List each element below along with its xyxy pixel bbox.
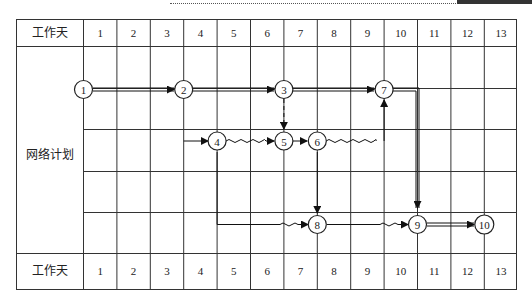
grid-table <box>16 19 517 290</box>
svg-text:2: 2 <box>181 84 187 96</box>
svg-text:7: 7 <box>381 84 387 96</box>
footer-day: 8 <box>331 265 337 277</box>
header-day: 4 <box>198 27 204 39</box>
header-day: 1 <box>97 27 103 39</box>
footer-label: 工作天 <box>32 264 68 278</box>
header-label: 工作天 <box>32 26 68 40</box>
header-day: 10 <box>395 27 407 39</box>
footer-day: 2 <box>131 265 137 277</box>
node-3: 3 <box>275 81 293 99</box>
svg-text:9: 9 <box>415 219 421 231</box>
svg-text:3: 3 <box>281 84 287 96</box>
svg-text:10: 10 <box>479 219 491 231</box>
node-4: 4 <box>208 132 226 150</box>
svg-text:1: 1 <box>81 84 87 96</box>
header-day: 8 <box>331 27 337 39</box>
node-1: 1 <box>75 81 93 99</box>
edge-8-9 <box>327 223 408 226</box>
node-6: 6 <box>308 132 326 150</box>
edge-2-3 <box>193 88 274 91</box>
side-label: 网络计划 <box>26 147 74 162</box>
header-row: 工作天 1 2 3 4 5 6 7 8 9 10 11 12 13 <box>32 26 507 40</box>
node-5: 5 <box>275 132 293 150</box>
edge-1-2 <box>93 88 174 91</box>
svg-text:8: 8 <box>315 219 321 231</box>
header-day: 9 <box>365 27 371 39</box>
svg-text:4: 4 <box>214 136 220 148</box>
node-2: 2 <box>175 81 193 99</box>
header-day: 6 <box>264 27 270 39</box>
header-day: 2 <box>131 27 137 39</box>
footer-day: 12 <box>462 265 473 277</box>
footer-day: 13 <box>496 265 508 277</box>
edge-3-7 <box>293 88 374 91</box>
footer-day: 7 <box>298 265 304 277</box>
node-9: 9 <box>409 216 427 234</box>
footer-day: 11 <box>429 265 440 277</box>
header-day: 3 <box>164 27 170 39</box>
footer-day: 4 <box>198 265 204 277</box>
node-7: 7 <box>375 81 393 99</box>
node-10: 10 <box>475 215 494 234</box>
header-day: 5 <box>231 27 237 39</box>
footer-day: 6 <box>264 265 270 277</box>
header-day: 12 <box>462 27 473 39</box>
edge-4-8 <box>217 152 308 226</box>
svg-text:6: 6 <box>315 136 321 148</box>
footer-day: 10 <box>395 265 407 277</box>
time-scaled-network-diagram: 工作天 1 2 3 4 5 6 7 8 9 10 11 12 13 工作天 1 … <box>0 0 532 300</box>
footer-day: 1 <box>97 265 103 277</box>
footer-day: 9 <box>365 265 371 277</box>
footer-day: 5 <box>231 265 237 277</box>
node-8: 8 <box>308 216 326 234</box>
edge-7-9 <box>393 88 419 208</box>
header-day: 7 <box>298 27 304 39</box>
footer-row: 工作天 1 2 3 4 5 6 7 8 9 10 11 12 13 <box>32 264 507 278</box>
svg-text:5: 5 <box>281 136 287 148</box>
header-day: 13 <box>496 27 508 39</box>
footer-day: 3 <box>164 265 170 277</box>
header-day: 11 <box>429 27 440 39</box>
